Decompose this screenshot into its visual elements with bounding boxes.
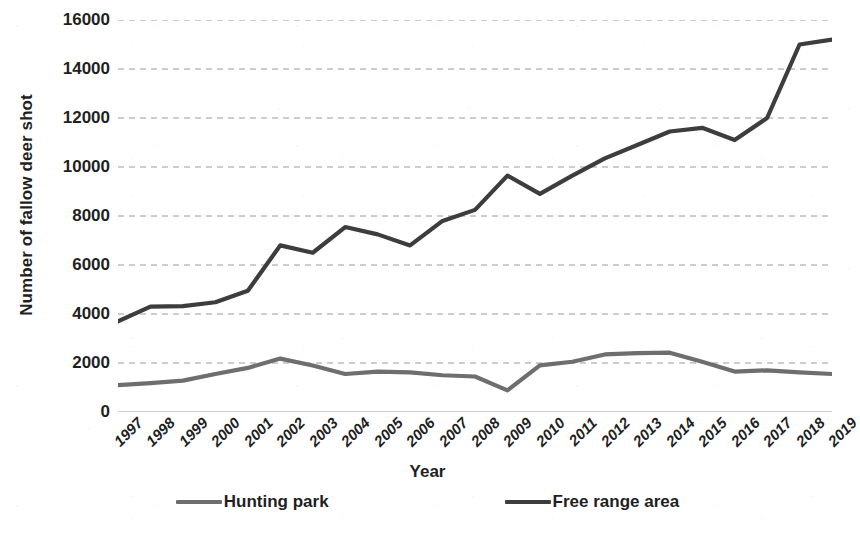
legend-item-2[interactable]: Free range area <box>505 492 680 512</box>
y-axis-tick-label: 14000 <box>16 59 118 79</box>
y-axis-tick-label: 16000 <box>16 10 118 30</box>
y-axis-tick-label: 4000 <box>16 304 118 324</box>
series-line-2 <box>118 40 832 322</box>
legend-swatch-icon <box>505 500 551 504</box>
legend-item-1[interactable]: Hunting park <box>176 492 329 512</box>
x-axis-title-text: Year <box>410 462 446 481</box>
chart-legend: Hunting parkFree range area <box>0 492 855 512</box>
chart-svg <box>118 20 832 412</box>
y-axis-tick-label: 2000 <box>16 353 118 373</box>
legend-swatch-icon <box>176 500 222 504</box>
y-axis-tick-label: 0 <box>16 402 118 422</box>
legend-label: Free range area <box>553 492 680 512</box>
plot-area <box>118 20 832 412</box>
series-line-1 <box>118 353 832 391</box>
y-axis-tick-label: 8000 <box>16 206 118 226</box>
y-axis-tick-label: 6000 <box>16 255 118 275</box>
y-axis-tick-label: 10000 <box>16 157 118 177</box>
y-axis-tick-label: 12000 <box>16 108 118 128</box>
x-axis-title: Year <box>0 462 855 482</box>
legend-label: Hunting park <box>224 492 329 512</box>
